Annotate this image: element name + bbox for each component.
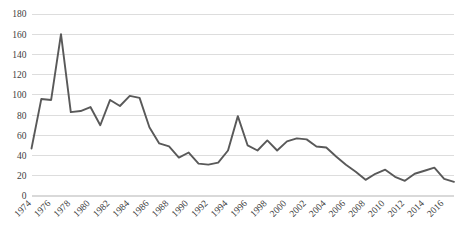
y-tick-label: 20 — [17, 171, 27, 181]
y-tick-label: 80 — [17, 111, 27, 121]
line-chart: 020406080100120140160180 197419761978198… — [0, 0, 460, 244]
x-tick-label: 2016 — [425, 198, 446, 219]
x-tick-label: 1992 — [189, 198, 210, 219]
x-tick-label: 2008 — [346, 198, 367, 219]
y-tick-label: 140 — [12, 50, 27, 60]
x-tick-label: 1996 — [229, 198, 250, 219]
x-tick-label: 1994 — [209, 198, 230, 219]
x-axis-tick-labels: 1974197619781980198219841986198819901992… — [12, 198, 445, 219]
x-tick-label: 1984 — [111, 198, 132, 219]
x-tick-label: 2002 — [288, 198, 309, 219]
chart-canvas: 020406080100120140160180 197419761978198… — [0, 0, 460, 244]
x-tick-label: 1990 — [170, 198, 191, 219]
x-tick-label: 1974 — [12, 198, 33, 219]
x-tick-label: 1980 — [71, 198, 92, 219]
x-tick-label: 1978 — [52, 198, 73, 219]
x-tick-label: 2012 — [386, 198, 407, 219]
x-tick-label: 2004 — [307, 198, 328, 219]
y-axis-tick-labels: 020406080100120140160180 — [12, 9, 27, 201]
x-tick-label: 1988 — [150, 198, 171, 219]
y-tick-label: 180 — [12, 9, 27, 19]
x-tick-label: 2006 — [327, 198, 348, 219]
y-tick-label: 40 — [17, 151, 27, 161]
x-tick-label: 1982 — [91, 198, 112, 219]
y-tick-label: 100 — [12, 90, 27, 100]
data-series-group — [32, 34, 455, 182]
x-tick-label: 1986 — [130, 198, 151, 219]
y-tick-label: 60 — [17, 131, 27, 141]
y-tick-label: 160 — [12, 30, 27, 40]
x-tick-label: 2000 — [268, 198, 289, 219]
gridlines — [32, 14, 455, 196]
x-tick-label: 2014 — [405, 198, 426, 219]
y-tick-label: 120 — [12, 70, 27, 80]
x-tick-label: 2010 — [366, 198, 387, 219]
x-tick-label: 1976 — [32, 198, 53, 219]
series-line — [32, 34, 455, 182]
x-tick-label: 1998 — [248, 198, 269, 219]
